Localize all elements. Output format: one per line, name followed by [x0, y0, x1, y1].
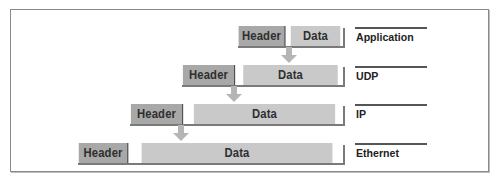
down-arrow-icon	[173, 125, 189, 141]
header-label: Header	[137, 107, 176, 121]
ethernet-layer-label: Ethernet	[356, 147, 399, 159]
ip-data: Data	[194, 104, 335, 124]
ip-rule	[355, 104, 427, 106]
down-arrow-icon	[281, 47, 297, 63]
ip-layer-label: IP	[356, 108, 366, 120]
data-label: Data	[252, 107, 277, 121]
udp-rule	[355, 66, 427, 68]
udp-header: Header	[183, 65, 235, 85]
udp-layer-label: UDP	[356, 70, 378, 82]
application-layer-label: Application	[356, 31, 414, 43]
application-packet: Header Data	[236, 26, 343, 46]
udp-packet: Header Data	[180, 65, 343, 85]
application-data: Data	[291, 26, 341, 46]
down-arrow-icon	[226, 86, 242, 102]
ethernet-rule	[355, 143, 427, 145]
header-label: Header	[83, 146, 122, 160]
ip-header: Header	[131, 104, 183, 124]
header-label: Header	[189, 68, 228, 82]
ethernet-packet: Header Data	[76, 143, 343, 163]
data-label: Data	[303, 29, 328, 43]
data-label: Data	[224, 146, 249, 160]
header-label: Header	[242, 29, 281, 43]
ethernet-data: Data	[142, 143, 333, 163]
data-label: Data	[278, 68, 303, 82]
application-rule	[355, 27, 427, 29]
application-header: Header	[239, 26, 286, 46]
ethernet-header: Header	[79, 143, 129, 163]
ip-packet: Header Data	[128, 104, 343, 124]
udp-data: Data	[243, 65, 338, 85]
